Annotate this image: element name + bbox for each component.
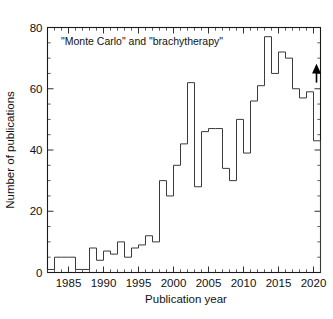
x-tick-label: 1985 xyxy=(56,277,82,289)
publications-histogram: 19851990199520002005201020152020 0204060… xyxy=(0,0,333,319)
x-axis-major-ticks xyxy=(69,28,314,273)
x-tick-label: 2010 xyxy=(231,277,257,289)
x-tick-label: 2015 xyxy=(266,277,292,289)
partial-year-up-arrow-icon xyxy=(313,66,319,83)
x-tick-label: 1995 xyxy=(126,277,152,289)
y-tick-label: 60 xyxy=(30,83,43,95)
x-tick-label: 2000 xyxy=(161,277,187,289)
x-tick-label: 1990 xyxy=(91,277,117,289)
y-axis-tick-labels: 020406080 xyxy=(30,22,43,279)
chart-figure: 19851990199520002005201020152020 0204060… xyxy=(0,0,333,319)
histogram-outline xyxy=(48,37,321,273)
y-tick-label: 80 xyxy=(30,22,43,34)
y-axis-title: Number of publications xyxy=(4,91,16,209)
y-axis-minor-ticks xyxy=(48,43,321,257)
y-tick-label: 40 xyxy=(30,144,43,156)
x-tick-label: 2020 xyxy=(301,277,327,289)
y-tick-label: 20 xyxy=(30,205,43,217)
x-axis-title: Publication year xyxy=(145,293,227,305)
y-axis-major-ticks xyxy=(48,28,321,273)
y-tick-label: 0 xyxy=(36,267,42,279)
chart-annotation: "Monte Carlo" and "brachytherapy" xyxy=(61,35,223,47)
x-axis-minor-ticks xyxy=(48,28,321,273)
x-tick-label: 2005 xyxy=(196,277,222,289)
x-axis-tick-labels: 19851990199520002005201020152020 xyxy=(56,277,327,289)
axis-frame xyxy=(48,28,321,273)
